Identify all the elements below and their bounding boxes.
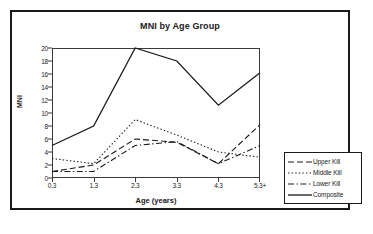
- chart-legend: Upper KillMiddle KillLower KillComposite: [284, 152, 362, 204]
- x-tick-label: 4.3: [214, 182, 222, 189]
- y-tick-label: 0: [34, 175, 48, 182]
- y-axis-tick-labels: 02468101214161820: [32, 48, 48, 178]
- x-axis-label: Age (years): [52, 196, 260, 205]
- legend-item[interactable]: Lower Kill: [287, 178, 359, 189]
- legend-line-swatch: [287, 157, 313, 167]
- y-tick-label: 12: [34, 97, 48, 104]
- legend-item-label: Composite: [313, 191, 343, 198]
- y-tick-label: 14: [34, 84, 48, 91]
- series-line-composite: [52, 48, 260, 146]
- legend-item-label: Lower Kill: [313, 180, 340, 187]
- chart-title: MNI by Age Group: [12, 21, 348, 31]
- y-tick-label: 4: [34, 149, 48, 156]
- y-axis-label: MNI: [16, 95, 23, 108]
- y-tick-label: 8: [34, 123, 48, 130]
- x-tick-label: 2.3: [131, 182, 139, 189]
- y-tick-label: 10: [34, 110, 48, 117]
- legend-item[interactable]: Middle Kill: [287, 167, 359, 178]
- legend-line-swatch: [287, 179, 313, 189]
- x-tick-label: 1.3: [89, 182, 97, 189]
- y-tick-label: 6: [34, 136, 48, 143]
- chart-figure: MNI by Age Group MNI 02468101214161820 0…: [10, 10, 350, 210]
- x-axis-tick-labels: 0.31.32.33.34.35.3+: [52, 182, 260, 194]
- legend-line-swatch: [287, 190, 313, 200]
- legend-item[interactable]: Composite: [287, 189, 359, 200]
- y-tick-label: 20: [34, 45, 48, 52]
- legend-item-label: Upper Kill: [313, 158, 340, 165]
- x-tick-label: 5.3+: [254, 182, 266, 189]
- legend-item[interactable]: Upper Kill: [287, 156, 359, 167]
- series-lines: [52, 48, 260, 178]
- y-tick-label: 16: [34, 71, 48, 78]
- legend-line-swatch: [287, 168, 313, 178]
- plot-area-wrapper: [52, 48, 260, 178]
- y-tick-label: 18: [34, 58, 48, 65]
- y-tick-label: 2: [34, 162, 48, 169]
- series-line-middle-kill: [52, 120, 260, 164]
- x-tick-label: 3.3: [173, 182, 181, 189]
- x-tick-label: 0.3: [48, 182, 56, 189]
- legend-item-label: Middle Kill: [313, 169, 342, 176]
- series-line-upper-kill: [52, 125, 260, 172]
